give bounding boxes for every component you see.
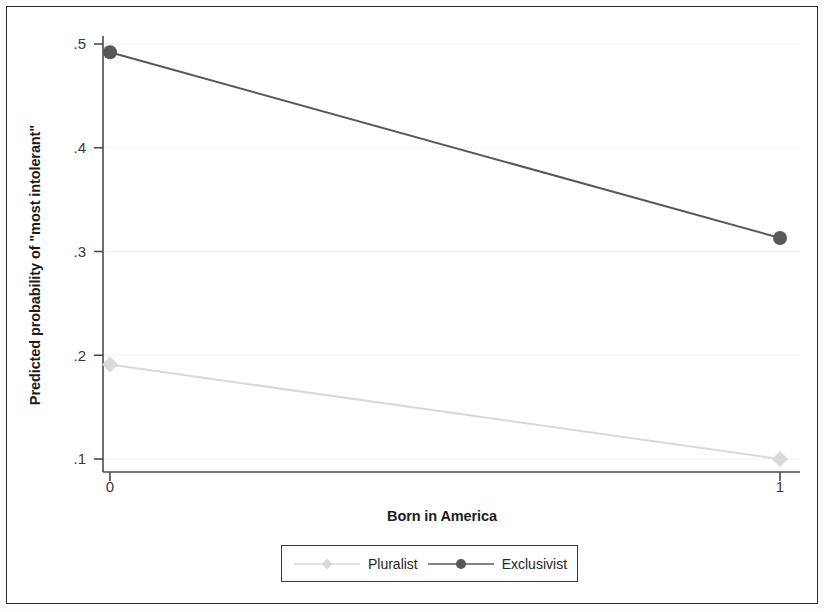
- marker-pluralist-1: [772, 451, 788, 467]
- y-tick-label-3: .3: [50, 244, 86, 260]
- y-tick-label-5: .5: [50, 36, 86, 52]
- marker-exclusivist-0: [103, 45, 117, 59]
- y-axis-title: Predicted probability of "most intoleran…: [22, 30, 48, 500]
- chart-legend: Pluralist Exclusivist: [281, 545, 578, 582]
- series-line-exclusivist: [110, 52, 780, 238]
- x-axis-title: Born in America: [103, 508, 781, 524]
- y-tick-label-4: .4: [50, 140, 86, 156]
- legend-entry-pluralist[interactable]: Pluralist: [292, 556, 418, 572]
- figure-container: .5 .4 .3 .2 .1 0 1 Predicted probability…: [0, 0, 824, 612]
- y-tick-label-1: .1: [50, 451, 86, 467]
- legend-swatch-exclusivist: [426, 557, 496, 571]
- data-series-layer: [102, 45, 788, 467]
- gridlines: [105, 44, 800, 459]
- marker-pluralist-0: [102, 357, 118, 373]
- axis-spines: [94, 36, 800, 481]
- x-tick-label-0: 0: [90, 478, 130, 495]
- x-tick-label-1: 1: [760, 478, 800, 495]
- legend-entry-exclusivist[interactable]: Exclusivist: [426, 556, 567, 572]
- series-line-pluralist: [110, 365, 780, 459]
- legend-label-exclusivist: Exclusivist: [502, 556, 567, 572]
- legend-label-pluralist: Pluralist: [368, 556, 418, 572]
- marker-exclusivist-1: [773, 231, 787, 245]
- y-tick-label-2: .2: [50, 348, 86, 364]
- legend-swatch-pluralist: [292, 557, 362, 571]
